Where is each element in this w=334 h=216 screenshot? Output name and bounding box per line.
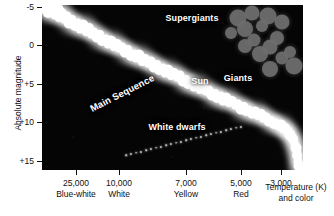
x-axis-tick bbox=[119, 170, 120, 175]
x-axis-label-line1: Temperature (K) bbox=[265, 182, 326, 192]
annotation-giants: Giants bbox=[224, 73, 253, 83]
y-axis-tick bbox=[37, 45, 42, 46]
y-axis-tick-label: -5 bbox=[4, 2, 34, 12]
y-axis-tick bbox=[37, 122, 42, 123]
y-axis-tick bbox=[37, 7, 42, 8]
x-axis-tick bbox=[281, 170, 282, 175]
plot-area: Supergiants Giants Sun Main Sequence Whi… bbox=[42, 5, 303, 170]
x-axis-tick-label: 10,000 bbox=[106, 178, 132, 188]
annotation-white-dwarfs: White dwarfs bbox=[148, 122, 205, 132]
hr-diagram-figure: Supergiants Giants Sun Main Sequence Whi… bbox=[0, 0, 334, 216]
x-axis-tick-label: 7,000 bbox=[175, 178, 196, 188]
x-axis-tick bbox=[76, 170, 77, 175]
x-axis-tick-label: 25,000 bbox=[63, 178, 89, 188]
x-axis-color-label: Yellow bbox=[174, 189, 198, 199]
y-axis-tick-label: +15 bbox=[4, 156, 34, 166]
x-axis-label-line2: and color bbox=[258, 193, 334, 204]
x-axis-label: Temperature (K) and color bbox=[258, 182, 334, 204]
x-axis-tick bbox=[241, 170, 242, 175]
y-axis-label: Absolute magnitude bbox=[13, 43, 23, 143]
y-axis-tick bbox=[37, 84, 42, 85]
annotation-sun: Sun bbox=[191, 76, 208, 86]
x-axis-color-label: Blue-white bbox=[56, 189, 96, 199]
background-texture bbox=[42, 5, 303, 170]
y-axis-tick bbox=[37, 161, 42, 162]
x-axis-tick bbox=[186, 170, 187, 175]
x-axis-tick-label: 5,000 bbox=[230, 178, 251, 188]
annotation-supergiants: Supergiants bbox=[165, 13, 218, 23]
x-axis-color-label: White bbox=[108, 189, 130, 199]
x-axis-color-label: Red bbox=[233, 189, 249, 199]
